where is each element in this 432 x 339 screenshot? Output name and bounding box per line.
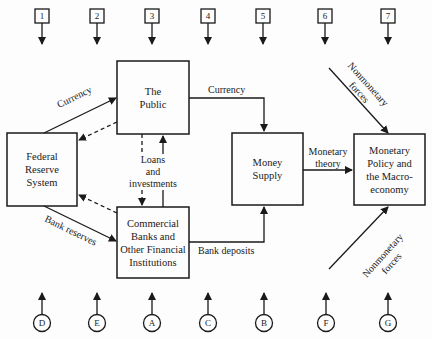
box-federal-reserve: Federal Reserve System (7, 133, 77, 206)
marker-C: C (199, 314, 217, 332)
marker-3: 3 (145, 9, 159, 23)
box-money-supply: Money Supply (232, 133, 303, 205)
marker-F: F (317, 314, 335, 332)
marker-7: 7 (381, 9, 395, 23)
marker-2: 2 (90, 9, 104, 23)
marker-B: B (255, 314, 273, 332)
marker-D: D (33, 314, 51, 332)
label-currency-public-supply: Currency (208, 84, 245, 96)
label-bank-deposits: Bank deposits (198, 245, 254, 257)
label-loans-investments: Loans and investments (126, 154, 180, 190)
marker-1: 1 (35, 9, 49, 23)
marker-E: E (88, 314, 106, 332)
marker-A: A (143, 314, 161, 332)
marker-G: G (379, 314, 397, 332)
box-monetary-policy-macroeconomy: Monetary Policy and the Macro- economy (354, 134, 425, 205)
marker-5: 5 (256, 9, 270, 23)
label-monetary-theory: Monetary theory (306, 146, 350, 170)
box-the-public: The Public (117, 61, 189, 134)
marker-6: 6 (318, 9, 332, 23)
box-commercial-banks: Commercial Banks and Other Financial Ins… (117, 207, 189, 278)
marker-4: 4 (201, 9, 215, 23)
